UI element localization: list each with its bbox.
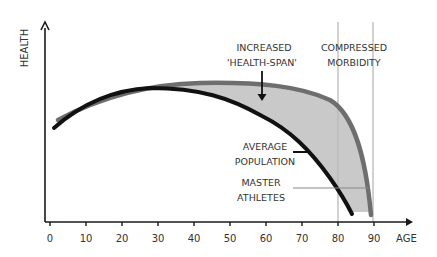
tick-label: 50 (224, 233, 237, 244)
tick-label: 20 (116, 233, 129, 244)
master-label-line1: MASTER (241, 177, 281, 188)
health-span-chart: 0 10 20 30 40 50 60 70 80 90 AGE HEALTH … (0, 0, 437, 257)
y-axis-title: HEALTH (19, 29, 30, 68)
tick-label: 0 (47, 233, 53, 244)
tick-label: 80 (332, 233, 345, 244)
tick-label: 90 (368, 233, 381, 244)
average-label-line1: AVERAGE (243, 141, 287, 152)
increased-label-line1: INCREASED (237, 42, 292, 53)
tick-label: 30 (152, 233, 165, 244)
tick-label: 70 (296, 233, 309, 244)
compressed-label-line2: MORBIDITY (327, 57, 381, 68)
average-label-line2: POPULATION (235, 156, 295, 167)
tick-label: 10 (80, 233, 93, 244)
master-label-line2: ATHLETES (237, 192, 285, 203)
x-tick-labels: 0 10 20 30 40 50 60 70 80 90 (47, 233, 381, 244)
x-axis-arrow-icon (406, 218, 413, 226)
compressed-label-line1: COMPRESSED (321, 42, 387, 53)
tick-label: 60 (260, 233, 273, 244)
tick-label: 40 (188, 233, 201, 244)
increased-label-line2: 'HEALTH-SPAN' (227, 57, 297, 68)
x-axis-title: AGE (396, 233, 417, 244)
